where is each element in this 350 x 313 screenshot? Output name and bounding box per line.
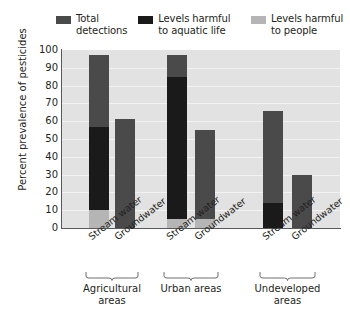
- bar-group-column: [167, 55, 187, 228]
- legend-label-total-detections: Total detections: [76, 13, 128, 36]
- group-brace: [163, 272, 219, 281]
- legend-item-total-detections: Total detections: [56, 13, 128, 36]
- legend-swatch-harmful-people: [251, 16, 266, 24]
- y-axis-tick-label: 30: [34, 170, 58, 180]
- y-axis-tick-label: 0: [34, 223, 58, 233]
- bar-group-column: [263, 111, 283, 228]
- x-axis-group-label: Agricultural areas: [69, 283, 155, 306]
- y-axis-tick-label: 50: [34, 134, 58, 144]
- legend-item-harmful-aquatic-life: Levels harmful to aquatic life: [138, 13, 241, 36]
- plot-area: [62, 50, 340, 228]
- legend-swatch-total-detections: [56, 16, 71, 24]
- y-axis-tick-label: 20: [34, 187, 58, 197]
- y-axis-tick-label: 90: [34, 63, 58, 73]
- y-axis-tick-label: 80: [34, 81, 58, 91]
- x-axis-group-label: Undeveloped areas: [243, 283, 332, 306]
- y-axis-tick-label: 100: [34, 45, 58, 55]
- bar-group-column: [89, 55, 109, 228]
- y-axis-tick-label: 40: [34, 152, 58, 162]
- y-axis-tick-label: 70: [34, 98, 58, 108]
- bar-segment-harmful-aquatic-life: [167, 77, 187, 228]
- group-brace: [259, 272, 316, 281]
- group-brace: [85, 272, 139, 281]
- legend-label-harmful-aquatic-life: Levels harmful to aquatic life: [158, 13, 241, 36]
- chart-legend: Total detections Levels harmful to aquat…: [56, 13, 346, 36]
- x-axis-group-label: Urban areas: [147, 283, 235, 295]
- y-axis-title: Percent prevalence of pesticides: [17, 20, 28, 200]
- legend-label-harmful-people: Levels harmful to people: [271, 13, 346, 36]
- legend-swatch-harmful-aquatic-life: [138, 16, 153, 24]
- y-axis-tick-label: 60: [34, 116, 58, 126]
- y-axis-tick-labels: 1009080706050403020100: [28, 50, 58, 228]
- legend-item-harmful-people: Levels harmful to people: [251, 13, 346, 36]
- y-axis-tick-label: 10: [34, 205, 58, 215]
